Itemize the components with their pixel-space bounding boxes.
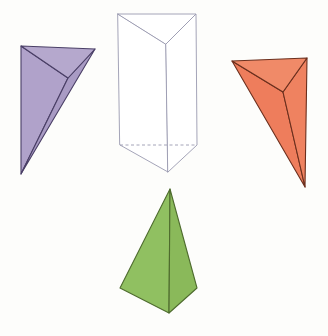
white-triangular-prism [118, 14, 197, 172]
figure-canvas [0, 0, 328, 336]
green-pyramid-face-left [120, 189, 170, 313]
orange-tetrahedron [232, 58, 307, 187]
green-pyramid-face-right [169, 189, 197, 313]
solids-illustration [0, 0, 328, 336]
purple-tetrahedron [21, 46, 95, 174]
green-pyramid [120, 189, 197, 313]
